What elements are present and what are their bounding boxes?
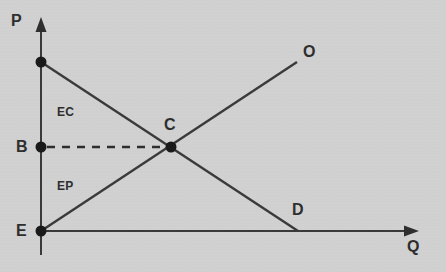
diagram-canvas: P Q E B C O D EC EP (0, 0, 446, 272)
producer-surplus-label: EP (57, 180, 74, 192)
equilibrium-price-point-label: B (16, 139, 28, 155)
consumer-surplus-label: EC (57, 106, 74, 118)
y-axis-label: P (11, 13, 22, 29)
supply-demand-plot (0, 0, 446, 272)
demand-intercept-point (36, 57, 47, 68)
supply-curve-label: O (303, 44, 315, 60)
equilibrium-point-label: C (164, 117, 176, 133)
x-axis-arrowhead (404, 226, 419, 237)
origin-point-label: E (16, 223, 27, 239)
x-axis-label: Q (407, 239, 419, 255)
equilibrium-point (166, 142, 177, 153)
equilibrium-price-point (36, 142, 47, 153)
y-axis-arrowhead (36, 17, 47, 32)
demand-curve-label: D (292, 202, 304, 218)
origin-point (36, 226, 47, 237)
